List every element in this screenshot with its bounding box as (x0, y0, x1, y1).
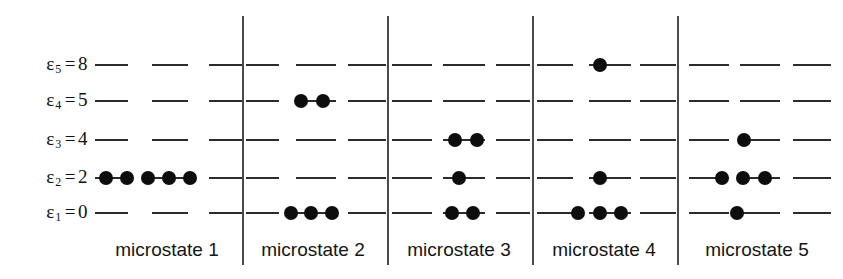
particle-dot-microstate-3-e2-1 (452, 171, 466, 185)
energy-level-line-microstate-2-e3-seg1 (246, 139, 279, 141)
panel-divider-4 (677, 16, 679, 265)
energy-level-line-microstate-1-e5-seg2 (152, 64, 188, 66)
energy-level-line-microstate-1-e4-seg3 (209, 100, 243, 102)
energy-level-line-microstate-1-e5-seg1 (95, 64, 128, 66)
energy-level-index: 3 (55, 137, 62, 151)
particle-dot-microstate-5-e2-2 (736, 171, 750, 185)
energy-level-line-microstate-4-e2-seg3 (640, 177, 676, 179)
energy-level-line-microstate-2-e3-seg2 (296, 139, 336, 141)
energy-level-line-microstate-4-e1-seg3 (640, 212, 676, 214)
energy-level-line-microstate-5-e5-seg3 (793, 64, 831, 66)
particle-dot-microstate-2-e1-2 (304, 206, 318, 220)
energy-level-line-microstate-5-e5-seg2 (740, 64, 780, 66)
energy-value: 2 (78, 166, 88, 187)
energy-level-line-microstate-3-e3-seg1 (392, 139, 432, 141)
particle-dot-microstate-4-e5-1 (593, 58, 607, 72)
energy-level-line-microstate-2-e5-seg1 (246, 64, 279, 66)
panel-caption-microstate-4: microstate 4 (552, 239, 655, 261)
energy-level-line-microstate-4-e4-seg1 (537, 100, 573, 102)
energy-level-line-microstate-5-e4-seg2 (740, 100, 780, 102)
energy-level-line-microstate-1-e2-seg3 (209, 177, 243, 179)
energy-level-line-microstate-3-e4-seg2 (443, 100, 485, 102)
particle-dot-microstate-3-e1-2 (466, 206, 480, 220)
energy-level-label-e4: ε4=5 (46, 89, 88, 113)
equals-sign: = (65, 166, 76, 187)
energy-level-line-microstate-5-e5-seg1 (689, 64, 729, 66)
energy-level-line-microstate-1-e5-seg3 (209, 64, 243, 66)
equals-sign: = (65, 89, 76, 110)
energy-symbol: ε (46, 53, 54, 74)
microstate-energy-level-diagram: ε5=8ε4=5ε3=4ε2=2ε1=0 microstate 1microst… (0, 0, 843, 279)
energy-level-index: 2 (55, 175, 62, 189)
energy-level-line-microstate-3-e4-seg3 (496, 100, 530, 102)
energy-level-line-microstate-4-e5-seg3 (640, 64, 676, 66)
energy-level-label-e5: ε5=8 (46, 53, 88, 77)
particle-dot-microstate-4-e1-1 (571, 206, 585, 220)
energy-level-line-microstate-3-e5-seg1 (392, 64, 432, 66)
energy-level-line-microstate-4-e1-seg1 (537, 212, 573, 214)
energy-value: 4 (78, 128, 88, 149)
particle-dot-microstate-2-e4-2 (316, 94, 330, 108)
energy-level-line-microstate-4-e5-seg1 (537, 64, 573, 66)
particle-dot-microstate-4-e2-1 (593, 171, 607, 185)
energy-level-line-microstate-2-e3-seg3 (348, 139, 386, 141)
energy-level-line-microstate-1-e3-seg3 (209, 139, 243, 141)
energy-level-line-microstate-5-e3-seg3 (793, 139, 831, 141)
energy-level-line-microstate-1-e3-seg2 (152, 139, 188, 141)
energy-level-line-microstate-3-e4-seg1 (392, 100, 432, 102)
energy-level-line-microstate-4-e4-seg3 (640, 100, 676, 102)
energy-level-line-microstate-5-e1-seg3 (793, 212, 831, 214)
energy-level-line-microstate-2-e4-seg1 (246, 100, 279, 102)
energy-level-label-e1: ε1=0 (46, 201, 88, 225)
particle-dot-microstate-1-e2-5 (183, 171, 197, 185)
energy-level-line-microstate-2-e5-seg3 (348, 64, 386, 66)
energy-level-line-microstate-5-e1-seg2 (740, 212, 780, 214)
energy-level-line-microstate-4-e2-seg1 (537, 177, 573, 179)
energy-level-line-microstate-2-e2-seg3 (348, 177, 386, 179)
equals-sign: = (65, 201, 76, 222)
particle-dot-microstate-5-e2-1 (715, 171, 729, 185)
energy-level-label-column: ε5=8ε4=5ε3=4ε2=2ε1=0 (0, 0, 88, 279)
panel-caption-microstate-5: microstate 5 (705, 239, 808, 261)
energy-level-line-microstate-3-e1-seg1 (392, 212, 432, 214)
particle-dot-microstate-1-e2-2 (120, 171, 134, 185)
particle-dot-microstate-2-e1-1 (284, 206, 298, 220)
panel-caption-microstate-2: microstate 2 (261, 239, 364, 261)
particle-dot-microstate-3-e3-1 (448, 133, 462, 147)
energy-level-line-microstate-1-e3-seg1 (95, 139, 128, 141)
equals-sign: = (65, 53, 76, 74)
energy-value: 5 (78, 89, 88, 110)
particle-dot-microstate-5-e2-3 (758, 171, 772, 185)
energy-level-line-microstate-2-e2-seg1 (246, 177, 279, 179)
particle-dot-microstate-5-e3-1 (737, 133, 751, 147)
energy-symbol: ε (46, 128, 54, 149)
energy-level-line-microstate-1-e1-seg3 (209, 212, 243, 214)
particle-dot-microstate-3-e1-1 (445, 206, 459, 220)
energy-level-line-microstate-3-e3-seg3 (496, 139, 530, 141)
energy-level-line-microstate-2-e1-seg1 (246, 212, 279, 214)
energy-level-line-microstate-1-e4-seg1 (95, 100, 128, 102)
particle-dot-microstate-1-e2-3 (141, 171, 155, 185)
particle-dot-microstate-4-e1-2 (593, 206, 607, 220)
energy-symbol: ε (46, 89, 54, 110)
energy-level-line-microstate-5-e2-seg3 (793, 177, 831, 179)
energy-level-line-microstate-2-e5-seg2 (296, 64, 336, 66)
energy-level-line-microstate-4-e3-seg1 (537, 139, 573, 141)
energy-level-line-microstate-3-e5-seg3 (496, 64, 530, 66)
energy-level-line-microstate-4-e4-seg2 (589, 100, 631, 102)
particle-dot-microstate-2-e4-1 (294, 94, 308, 108)
particle-dot-microstate-2-e1-3 (325, 206, 339, 220)
energy-level-line-microstate-3-e1-seg3 (496, 212, 530, 214)
energy-level-line-microstate-1-e4-seg2 (152, 100, 188, 102)
energy-level-line-microstate-5-e4-seg1 (689, 100, 729, 102)
energy-symbol: ε (46, 166, 54, 187)
energy-level-line-microstate-3-e2-seg1 (392, 177, 432, 179)
energy-value: 0 (78, 201, 88, 222)
particle-dot-microstate-1-e2-1 (99, 171, 113, 185)
energy-symbol: ε (46, 201, 54, 222)
panel-caption-microstate-3: microstate 3 (407, 239, 510, 261)
energy-level-line-microstate-5-e4-seg3 (793, 100, 831, 102)
panel-divider-2 (387, 16, 389, 265)
energy-level-line-microstate-5-e1-seg1 (689, 212, 729, 214)
energy-level-index: 5 (55, 62, 62, 76)
